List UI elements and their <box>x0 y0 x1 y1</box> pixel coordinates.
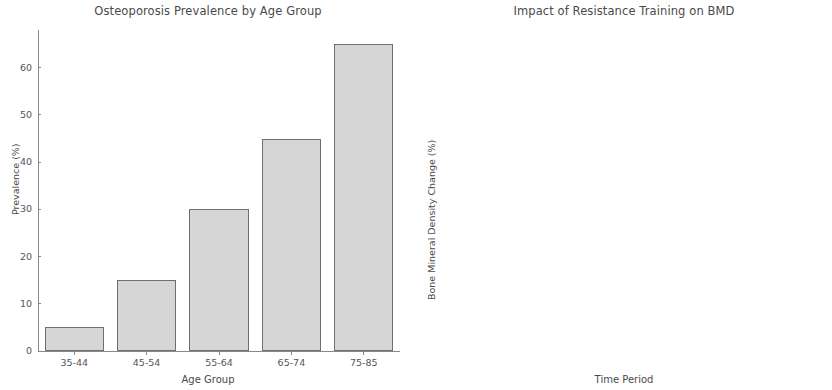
tick-mark <box>38 67 41 68</box>
bar-65-74 <box>262 139 321 351</box>
tick-label: 45-54 <box>133 357 161 368</box>
bar-55-64 <box>189 209 248 351</box>
tick-mark <box>291 352 292 355</box>
bar-chart-title: Osteoporosis Prevalence by Age Group <box>0 4 416 18</box>
tick-label: 60 <box>20 61 32 75</box>
tick-label: 20 <box>20 250 32 264</box>
tick-mark <box>363 352 364 355</box>
line-chart-panel: Impact of Resistance Training on BMD 012… <box>416 0 832 390</box>
tick-mark <box>38 303 41 304</box>
bar-chart-x-axis-label: Age Group <box>0 374 416 385</box>
tick-label: 40 <box>20 155 32 169</box>
tick-mark <box>38 162 41 163</box>
tick-label: 0 <box>26 344 32 358</box>
tick-label: 10 <box>20 297 32 311</box>
line-chart-y-axis-label: Bone Mineral Density Change (%) <box>426 140 437 300</box>
figure: Osteoporosis Prevalence by Age Group Pre… <box>0 0 832 390</box>
tick-mark <box>74 352 75 355</box>
line-chart-title: Impact of Resistance Training on BMD <box>416 4 832 18</box>
line-chart-x-axis-label: Time Period <box>416 374 832 385</box>
tick-mark <box>146 352 147 355</box>
tick-mark <box>38 256 41 257</box>
bar-chart-panel: Osteoporosis Prevalence by Age Group Pre… <box>0 0 416 390</box>
tick-label: 50 <box>20 108 32 122</box>
bar-45-54 <box>117 280 176 351</box>
bar-75-85 <box>334 44 393 351</box>
tick-mark <box>219 352 220 355</box>
tick-label: 55-64 <box>205 357 233 368</box>
tick-label: 65-74 <box>278 357 306 368</box>
tick-mark <box>38 351 41 352</box>
tick-mark <box>38 114 41 115</box>
tick-label: 75-85 <box>350 357 378 368</box>
tick-label: 35-44 <box>60 357 88 368</box>
bar-35-44 <box>45 327 104 351</box>
bar-chart-plot-area: 0102030405060 35-4445-5455-6465-7475-85 <box>38 30 400 352</box>
tick-label: 30 <box>20 202 32 216</box>
tick-mark <box>38 209 41 210</box>
